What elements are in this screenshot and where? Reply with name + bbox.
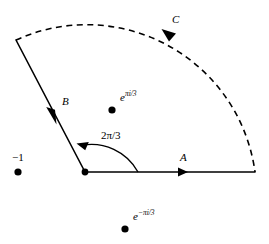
point-minus-one-dot [14,168,21,175]
complex-contour-figure: A B C 2π/3 −1 eπi/3 e−πi/3 [0,0,269,244]
label-path-b: B [62,96,69,107]
arrow-a-head [178,168,188,177]
label-path-c: C [172,14,179,25]
contour-diagram-svg [0,0,269,244]
label-point-minus-one: −1 [12,152,24,163]
arrow-c-head [162,29,177,42]
label-point-e-pi-i-3: eπi/3 [120,92,137,103]
angle-arc [81,144,138,172]
label-e-exponent-upper: πi/3 [125,89,137,98]
label-angle: 2π/3 [101,130,121,141]
point-e-pi-i-3-dot [108,106,115,113]
point-origin [82,169,89,176]
label-point-e-minus-pi-i-3: e−πi/3 [133,211,155,222]
label-e-exponent-lower: −πi/3 [138,208,155,217]
arrow-b-head [46,107,56,125]
arrow-angle-head [77,142,89,150]
point-e-minus-pi-i-3-dot [121,225,128,232]
ray-b-line [16,40,85,172]
label-path-a: A [180,152,187,163]
